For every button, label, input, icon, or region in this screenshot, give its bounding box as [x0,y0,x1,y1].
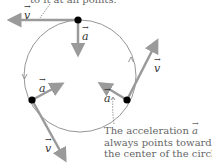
acceleration-label-right: a [104,93,111,104]
uniform-circular-motion-figure: to it at all points. v a a v a v The acc… [0,0,212,165]
velocity-label-top: v [24,10,30,21]
bottom-caption: The acceleration a always points toward … [104,125,212,160]
bottom-caption-line-3: the center of the circle. [104,148,212,160]
velocity-label-left: v [45,143,51,154]
particle-left [28,96,35,103]
particle-right [123,96,130,103]
particle-top [74,16,81,23]
bottom-caption-leader [113,98,114,124]
acceleration-label-left: a [39,83,46,94]
top-caption-leader [40,4,50,18]
top-caption: to it at all points. [30,0,117,6]
bottom-caption-line-1: The acceleration a [104,125,212,137]
bottom-caption-line-2: always points toward [104,137,212,149]
path-direction-arrow-left [22,74,27,79]
acceleration-label-top: a [82,31,89,42]
velocity-label-right: v [154,63,160,74]
